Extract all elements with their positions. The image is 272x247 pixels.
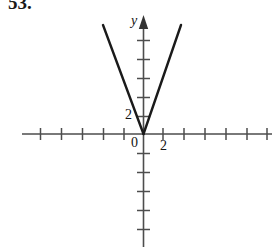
y-axis-label: y [131,14,137,28]
x-axis-tick-label-2: 2 [160,139,167,153]
absolute-value-curve [103,25,181,134]
origin-label: 0 [131,136,138,150]
y-axis-arrow-icon [139,15,148,29]
curve-left-branch [103,25,144,134]
figure-page: 53. [0,0,272,247]
y-axis-tick-label-2: 2 [125,108,132,122]
coordinate-plane-figure [0,0,272,247]
curve-right-branch [144,25,182,134]
